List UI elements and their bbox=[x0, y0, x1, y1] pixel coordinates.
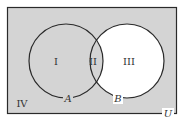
venn-diagram: I II III IV A B U bbox=[0, 0, 188, 129]
region-iv-label: IV bbox=[16, 98, 28, 109]
region-i-label: I bbox=[54, 56, 58, 67]
region-iii-label: III bbox=[123, 56, 135, 67]
set-a-label: A bbox=[63, 93, 71, 104]
region-ii-label: II bbox=[89, 56, 97, 67]
set-b-label: B bbox=[113, 93, 121, 104]
universe-label: U bbox=[164, 108, 173, 119]
